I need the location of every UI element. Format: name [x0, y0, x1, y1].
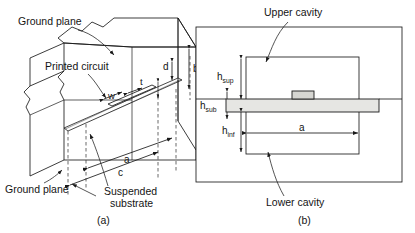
- conductor-strip: [292, 91, 314, 99]
- leader-printed-circuit: [88, 74, 106, 98]
- label-ground-plane-bottom: Ground plane: [5, 183, 69, 195]
- caption-a: (a): [97, 214, 110, 226]
- label-printed-circuit: Printed circuit: [45, 60, 109, 72]
- dimension-label-d: d: [163, 61, 169, 72]
- technical-diagram: b d w t a: [0, 0, 415, 233]
- leader-substrate-edge: [72, 184, 96, 196]
- block-front-face-upper: [30, 43, 196, 58]
- panel-a-drawing: b d w t a: [24, 18, 204, 196]
- label-suspended-substrate-1: Suspended: [104, 185, 157, 197]
- dimension-label-w: w: [107, 90, 115, 101]
- dimension-label-c: c: [118, 167, 123, 178]
- suspended-substrate-plane: [64, 78, 182, 131]
- dimension-c: c: [70, 152, 158, 185]
- dimension-d: d: [163, 61, 172, 80]
- label-upper-cavity: Upper cavity: [264, 6, 323, 18]
- caption-b: (b): [298, 214, 311, 226]
- leader-ground-plane-top: [78, 30, 114, 55]
- dimension-label-b-a: a: [299, 122, 305, 133]
- substrate-slab: [226, 99, 379, 112]
- label-lower-cavity: Lower cavity: [266, 196, 325, 208]
- panel-b-drawing: hsup hsub hinf a: [196, 22, 402, 196]
- label-ground-plane-top: Ground plane: [18, 15, 82, 27]
- dimension-t: t: [128, 76, 143, 93]
- figure-container: b d w t a: [0, 0, 415, 233]
- block-right-face: [178, 18, 196, 150]
- leader-ground-plane-bottom: [44, 170, 62, 183]
- dimension-label-t: t: [140, 76, 143, 87]
- label-suspended-substrate-2: substrate: [110, 197, 153, 209]
